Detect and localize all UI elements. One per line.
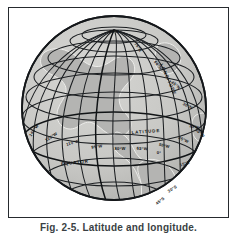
globe-svg: 80°N 75°N 60°N 45°N 30°N 15°N 0° 15°S 30… — [9, 8, 227, 216]
globe-diagram: 80°N 75°N 60°N 45°N 30°N 15°N 0° 15°S 30… — [9, 8, 228, 217]
figure-caption: Fig. 2-5. Latitude and longitude. — [8, 222, 229, 236]
label-longitude-80w: 80°W — [114, 146, 125, 151]
label-latitude-0: 0° — [157, 150, 162, 155]
label-latitude-80n: 80°N — [109, 29, 119, 34]
label-longitude-65w: 65°W — [136, 146, 147, 152]
figure-frame: 80°N 75°N 60°N 45°N 30°N 15°N 0° 15°S 30… — [8, 7, 229, 218]
label-latitude-45s: 45°S — [155, 196, 166, 206]
figure-root: 80°N 75°N 60°N 45°N 30°N 15°N 0° 15°S 30… — [0, 0, 238, 236]
label-latitude-30s: 30°S — [167, 184, 178, 194]
